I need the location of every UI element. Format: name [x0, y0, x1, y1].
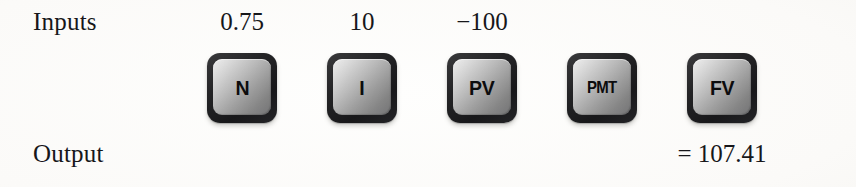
output-row-label: Output: [33, 140, 104, 168]
calculator-key-pmt[interactable]: PMT: [567, 53, 637, 123]
key-face-n: N: [213, 59, 271, 115]
input-value-pv: −100: [427, 8, 537, 36]
calculator-key-pv[interactable]: PV: [447, 53, 517, 123]
calculator-key-fv[interactable]: FV: [687, 53, 757, 123]
key-label-fv: FV: [710, 77, 734, 98]
key-face-fv: FV: [693, 59, 751, 115]
input-value-n: 0.75: [187, 8, 297, 36]
key-label-i: I: [359, 77, 364, 98]
key-face-i: I: [333, 59, 391, 115]
key-face-pmt: PMT: [573, 59, 631, 115]
inputs-row-label: Inputs: [33, 8, 97, 36]
output-result-value: = 107.41: [637, 140, 807, 168]
calculator-key-n[interactable]: N: [207, 53, 277, 123]
input-value-i: 10: [307, 8, 417, 36]
key-label-pmt: PMT: [587, 79, 616, 96]
calculator-key-i[interactable]: I: [327, 53, 397, 123]
key-face-pv: PV: [453, 59, 511, 115]
calculator-keys-figure: Inputs Output 0.75 10 −100 N I PV PMT FV…: [0, 0, 856, 187]
key-label-pv: PV: [469, 77, 495, 98]
key-label-n: N: [235, 77, 249, 98]
